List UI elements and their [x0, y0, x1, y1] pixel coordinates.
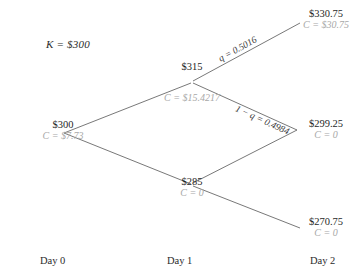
node-day2-mid-option-value: C = 0 — [292, 129, 360, 140]
axis-label-day1: Day 1 — [167, 255, 192, 266]
node-day2-down-option-value: C = 0 — [292, 227, 360, 238]
node-day2-up-option-value: C = $30.75 — [292, 19, 360, 30]
node-day0: $300 C = $7.73 — [20, 119, 106, 141]
node-day1-down-option-value: C = 0 — [155, 187, 229, 198]
node-day1-down: $285 C = 0 — [155, 176, 229, 198]
node-day1-up-option-value: C = $15.4217 — [140, 92, 244, 104]
node-day1-up-price: $315 — [155, 61, 229, 72]
node-day1-down-price: $285 — [155, 176, 229, 187]
node-day0-price: $300 — [20, 119, 106, 130]
node-day2-down: $270.75 C = 0 — [292, 216, 360, 238]
node-day1-up: $315 — [155, 61, 229, 72]
node-day2-mid: $299.25 C = 0 — [292, 118, 360, 140]
axis-label-day2: Day 2 — [310, 255, 335, 266]
node-day2-up: $330.75 C = $30.75 — [292, 8, 360, 30]
node-day0-option-value: C = $7.73 — [20, 130, 106, 141]
strike-price-label: K = $300 — [46, 38, 90, 51]
node-day2-up-price: $330.75 — [292, 8, 360, 19]
node-day2-down-price: $270.75 — [292, 216, 360, 227]
node-day2-mid-price: $299.25 — [292, 118, 360, 129]
binomial-tree-diagram: K = $300 $300 C = $7.73 $315 C = $15.421… — [0, 0, 360, 280]
axis-label-day0: Day 0 — [40, 255, 65, 266]
branch-day1up-up — [193, 23, 300, 81]
